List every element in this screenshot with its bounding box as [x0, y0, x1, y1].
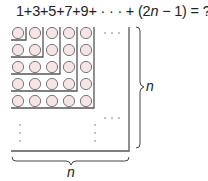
grid-circle	[29, 61, 40, 72]
grid-circle	[63, 61, 74, 72]
bottom-n-label: n	[67, 164, 75, 180]
vertical-ellipsis-right	[94, 124, 96, 142]
grid-circle	[29, 44, 40, 55]
grid-circle	[29, 78, 40, 89]
grid-circle	[46, 78, 57, 89]
right-n-label: n	[146, 78, 154, 94]
grid-circle	[46, 61, 57, 72]
odd-sum-square-diagram	[0, 0, 208, 181]
grid-circle	[46, 27, 57, 38]
grid-circle	[63, 44, 74, 55]
grid-circle	[80, 61, 91, 72]
grid-circle	[12, 95, 23, 106]
grid-circle	[46, 44, 57, 55]
grid-circle	[12, 44, 23, 55]
grid-circle	[12, 27, 23, 38]
vertical-ellipsis-left	[19, 124, 21, 142]
circle-grid	[12, 27, 91, 106]
grid-circle	[80, 78, 91, 89]
grid-circle	[63, 27, 74, 38]
grid-circle	[80, 95, 91, 106]
grid-circle	[80, 27, 91, 38]
grid-circle	[63, 78, 74, 89]
grid-circle	[80, 44, 91, 55]
grid-circle	[29, 27, 40, 38]
right-curly-brace	[136, 27, 144, 148]
grid-circle	[12, 78, 23, 89]
grid-circle	[29, 95, 40, 106]
horizontal-ellipsis-bottom	[104, 117, 120, 119]
grid-circle	[12, 61, 23, 72]
grid-circle	[46, 95, 57, 106]
horizontal-ellipsis-top	[104, 32, 120, 34]
grid-circle	[63, 95, 74, 106]
